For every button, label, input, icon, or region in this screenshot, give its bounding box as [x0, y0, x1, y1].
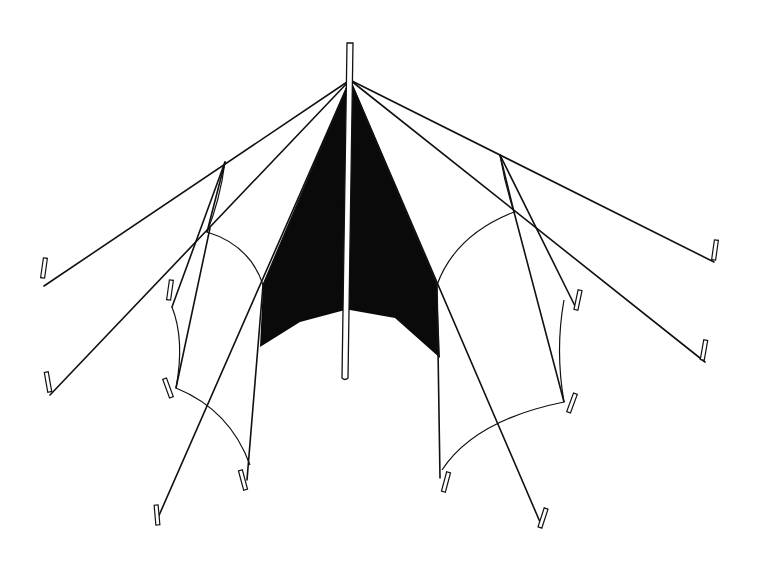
frame-line — [437, 285, 440, 478]
frame-line — [176, 228, 210, 388]
stake-icon — [238, 470, 247, 490]
tarp-edge-curve — [207, 232, 263, 285]
tent-drawing — [0, 0, 760, 583]
frame-line — [500, 155, 514, 212]
frame-line — [500, 155, 575, 306]
stake-icon — [41, 258, 48, 278]
stake-icon — [167, 280, 174, 300]
frame-line — [247, 285, 263, 480]
stake-icon — [574, 290, 582, 310]
stake-icon — [567, 393, 578, 413]
tarp-edge-curve — [176, 388, 250, 465]
stake-icon — [712, 240, 719, 260]
tarp-edge-curve — [437, 212, 514, 285]
stake-icon — [538, 508, 548, 528]
stake-icon — [44, 372, 51, 392]
frame-line — [514, 212, 564, 402]
stake-icon — [700, 340, 707, 360]
stake-icon — [154, 505, 160, 525]
stake-icon — [441, 472, 450, 492]
stake-icon — [163, 378, 174, 398]
